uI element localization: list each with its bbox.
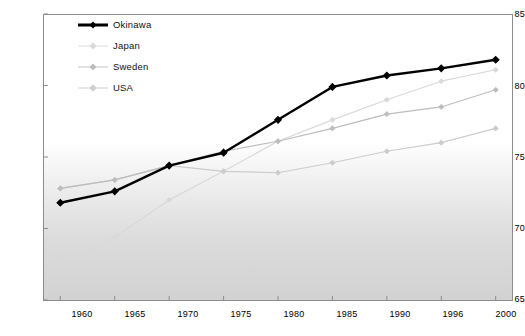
diamond-marker-icon: [78, 40, 108, 51]
legend-item-okinawa[interactable]: Okinawa: [78, 14, 151, 35]
legend-label: Okinawa: [113, 19, 151, 30]
legend-item-japan[interactable]: Japan: [78, 35, 151, 56]
chart-legend: Okinawa Japan Sweden USA: [78, 14, 151, 98]
legend-label: Sweden: [113, 61, 149, 72]
diamond-marker-icon: [78, 82, 108, 93]
legend-label: Japan: [113, 40, 140, 51]
legend-item-usa[interactable]: USA: [78, 77, 151, 98]
legend-item-sweden[interactable]: Sweden: [78, 56, 151, 77]
diamond-marker-icon: [78, 61, 108, 72]
diamond-marker-icon: [78, 19, 108, 30]
life-expectancy-line-chart: 85 80 75 70 65 1960 1965 1970 1975 1980 …: [0, 0, 525, 336]
legend-label: USA: [113, 82, 133, 93]
